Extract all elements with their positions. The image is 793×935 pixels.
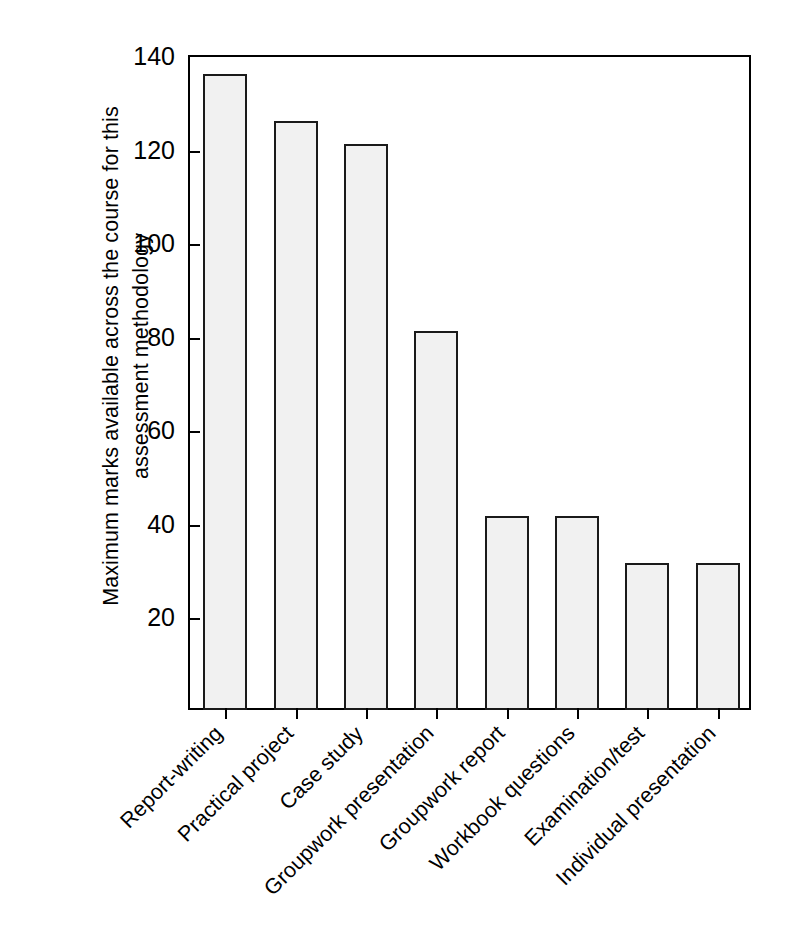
y-axis-title-line-2: assessment methodology bbox=[126, 6, 156, 706]
bar bbox=[485, 516, 529, 710]
y-tick-label: 100 bbox=[57, 231, 175, 256]
x-tick-mark bbox=[718, 708, 720, 719]
y-tick-mark bbox=[189, 151, 200, 153]
y-tick-label: 40 bbox=[57, 512, 175, 537]
x-tick-label: Individual presentation bbox=[552, 722, 720, 890]
y-tick-label: 80 bbox=[57, 325, 175, 350]
x-tick-mark bbox=[225, 708, 227, 719]
y-tick-mark bbox=[189, 618, 200, 620]
x-tick-mark bbox=[647, 708, 649, 719]
x-tick-label: Case study bbox=[276, 722, 368, 814]
y-tick-label: 20 bbox=[57, 605, 175, 630]
y-tick-label: 120 bbox=[57, 138, 175, 163]
x-tick-label: Workbook questions bbox=[426, 722, 579, 875]
y-tick-mark bbox=[189, 431, 200, 433]
bar bbox=[414, 331, 458, 710]
plot-area: 20406080100120140 bbox=[188, 55, 751, 710]
y-tick-mark bbox=[189, 338, 200, 340]
x-tick-label: Groupwork report bbox=[375, 722, 509, 856]
x-tick-label: Report-writing bbox=[116, 722, 226, 832]
x-tick-label: Groupwork presentation bbox=[260, 722, 438, 900]
x-tick-label: Examination/test bbox=[521, 722, 649, 850]
x-tick-mark bbox=[296, 708, 298, 719]
bar bbox=[625, 563, 669, 710]
y-tick-mark bbox=[189, 525, 200, 527]
bar bbox=[344, 144, 388, 710]
y-axis-title: Maximum marks available across the cours… bbox=[0, 0, 120, 760]
bar bbox=[696, 563, 740, 710]
y-tick-label: 60 bbox=[57, 418, 175, 443]
bar bbox=[274, 121, 318, 710]
bar bbox=[203, 74, 247, 710]
x-tick-mark bbox=[436, 708, 438, 719]
bar-chart-figure: Maximum marks available across the cours… bbox=[0, 0, 793, 935]
x-tick-mark bbox=[507, 708, 509, 719]
x-tick-mark bbox=[577, 708, 579, 719]
x-tick-label: Practical project bbox=[173, 722, 297, 846]
bar bbox=[555, 516, 599, 710]
y-tick-mark bbox=[189, 244, 200, 246]
x-tick-mark bbox=[366, 708, 368, 719]
y-tick-label: 140 bbox=[57, 44, 175, 69]
